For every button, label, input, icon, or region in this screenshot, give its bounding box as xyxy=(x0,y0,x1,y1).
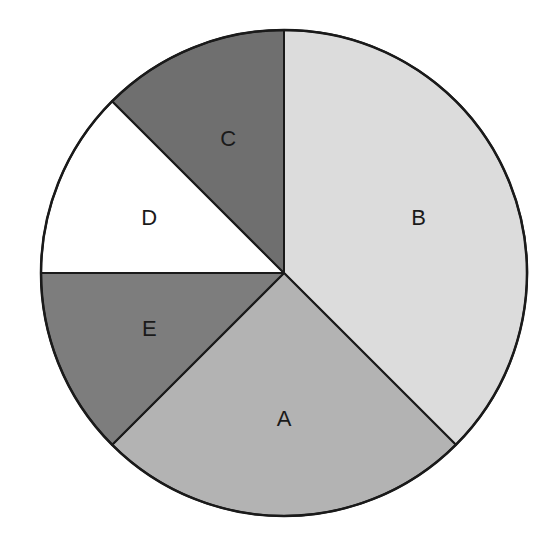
slice-label-e: E xyxy=(142,316,157,341)
slice-label-c: C xyxy=(220,126,236,151)
pie-slices xyxy=(41,30,527,516)
slice-label-b: B xyxy=(411,205,426,230)
pie-chart: BAEDC xyxy=(0,0,551,538)
slice-label-d: D xyxy=(141,205,157,230)
slice-label-a: A xyxy=(277,406,292,431)
